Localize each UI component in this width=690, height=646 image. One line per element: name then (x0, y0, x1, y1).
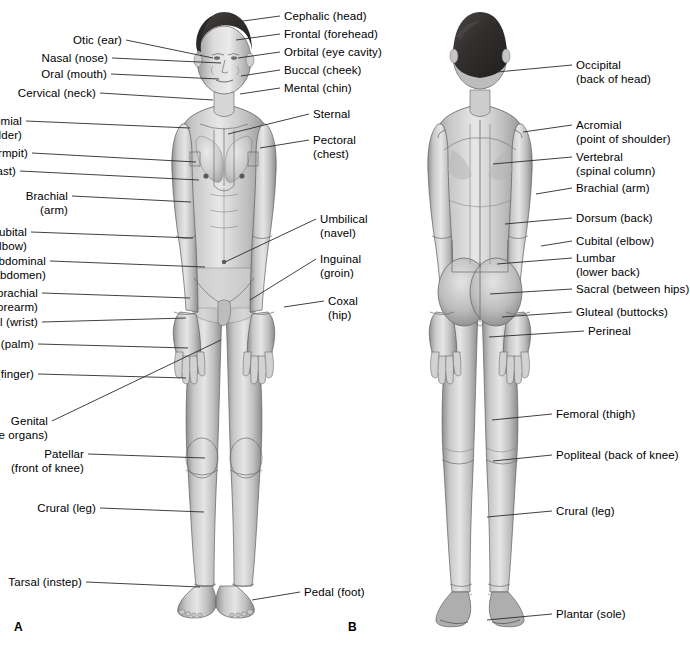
label-brachial: Brachial (arm) (26, 190, 68, 217)
label-mammary: Mammary (breast) (0, 165, 16, 179)
label-dorsum: Dorsum (back) (576, 212, 653, 226)
label-axillary: Axillary (armpit) (0, 147, 28, 161)
panel-letter-b: B (348, 620, 357, 634)
label-vertebral: Vertebral (spinal column) (576, 151, 655, 178)
label-brachial_p: Brachial (arm) (576, 182, 650, 196)
label-popliteal: Popliteal (back of knee) (556, 449, 679, 463)
label-nasal: Nasal (nose) (42, 52, 108, 66)
label-plantar: Plantar (sole) (556, 608, 626, 622)
label-coxal: Coxal (hip) (328, 295, 358, 322)
label-palmar: Palmar (palm) (0, 338, 34, 352)
label-lumbar: Lumbar (lower back) (576, 252, 640, 279)
label-mental: Mental (chin) (284, 82, 352, 96)
label-perineal: Perineal (588, 325, 631, 339)
label-acromial: Acromial (point of shoulder) (0, 115, 22, 142)
label-cephalic: Cephalic (head) (284, 10, 367, 24)
label-sternal: Sternal (313, 108, 350, 122)
label-oral: Oral (mouth) (41, 68, 107, 82)
label-femoral: Femoral (thigh) (556, 408, 635, 422)
posterior-body (428, 12, 532, 627)
label-patellar: Patellar (front of knee) (11, 448, 84, 475)
panel-letter-a: A (14, 620, 23, 634)
label-inguinal: Inguinal (groin) (320, 253, 361, 280)
label-frontal: Frontal (forehead) (284, 28, 378, 42)
label-carpal: Carpal (wrist) (0, 316, 38, 330)
anterior-body (172, 12, 276, 618)
label-sacral: Sacral (between hips) (576, 283, 689, 297)
label-abdominal: Abdominal (abdomen) (0, 255, 46, 282)
label-umbilical: Umbilical (navel) (320, 213, 368, 240)
label-crural_ant: Crural (leg) (37, 502, 96, 516)
label-buccal: Buccal (cheek) (284, 64, 361, 78)
anatomy-figure-stage: Otic (ear)Nasal (nose)Oral (mouth)Cervic… (0, 0, 690, 646)
label-antebrachial: Antebrachial (forearm) (0, 287, 38, 314)
label-digital: Digital (finger) (0, 368, 34, 382)
label-orbital: Orbital (eye cavity) (284, 46, 382, 60)
label-acromial_p: Acromial (point of shoulder) (576, 119, 671, 146)
label-genital: Genital (reproductive organs) (0, 415, 48, 442)
label-tarsal: Tarsal (instep) (8, 576, 82, 590)
label-occipital: Occipital (back of head) (576, 59, 651, 86)
label-gluteal: Gluteal (buttocks) (576, 306, 668, 320)
body-illustrations (0, 0, 690, 646)
label-pectoral: Pectoral (chest) (313, 134, 356, 161)
label-cervical: Cervical (neck) (18, 87, 96, 101)
label-cubital: Cubital (elbow) (576, 235, 654, 249)
label-crural_post: Crural (leg) (556, 505, 615, 519)
label-pedal: Pedal (foot) (304, 586, 365, 600)
label-otic: Otic (ear) (73, 34, 122, 48)
label-antecubital: Antecubital (front of elbow) (0, 226, 27, 253)
